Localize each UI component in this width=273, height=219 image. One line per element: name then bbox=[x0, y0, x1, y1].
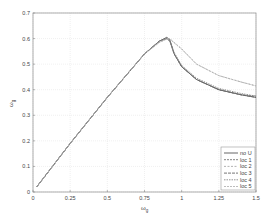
y-tick-label: 0.2 bbox=[22, 138, 30, 144]
y-axis-label: ωg bbox=[8, 99, 16, 107]
x-tick-label: 0 bbox=[31, 195, 34, 201]
y-tick-label: 0.4 bbox=[22, 87, 30, 93]
y-tick-label: 0.3 bbox=[22, 112, 30, 118]
legend-item-label: no U bbox=[240, 150, 252, 156]
y-tick-label: 0.6 bbox=[22, 36, 30, 42]
legend-item-label: loc 4 bbox=[240, 177, 252, 183]
x-tick-label: 1.5 bbox=[252, 195, 260, 201]
x-tick-label: 1 bbox=[180, 195, 183, 201]
y-tick-label: 0 bbox=[27, 189, 30, 195]
legend-item-label: loc 2 bbox=[240, 163, 252, 169]
y-tick-label: 0.5 bbox=[22, 61, 30, 67]
x-tick-label: 1.25 bbox=[213, 195, 224, 201]
legend-item-label: loc 3 bbox=[240, 170, 252, 176]
y-tick-label: 0.7 bbox=[22, 10, 30, 16]
x-tick-label: 0.75 bbox=[139, 195, 150, 201]
y-tick-label: 0.1 bbox=[22, 163, 30, 169]
x-tick-label: 0.5 bbox=[104, 195, 112, 201]
legend-item-label: loc 5 bbox=[240, 183, 252, 189]
x-tick-label: 0.25 bbox=[65, 195, 76, 201]
legend: no Uloc 1loc 2loc 3loc 4loc 5 bbox=[221, 147, 255, 190]
line-chart: 00.250.50.7511.251.5 00.10.20.30.40.50.6… bbox=[0, 0, 273, 219]
x-axis-label: ωg bbox=[141, 205, 149, 213]
legend-item-label: loc 1 bbox=[240, 157, 252, 163]
